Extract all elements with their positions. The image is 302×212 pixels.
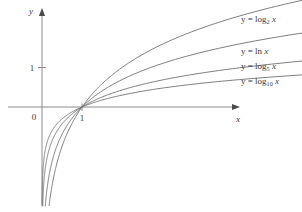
- svg-text:y = ln x: y = ln x: [241, 46, 268, 56]
- log10-prefix: y = log: [241, 76, 267, 86]
- x-tick-label-one: 1: [80, 113, 85, 123]
- svg-text:y = log10 x: y = log10 x: [241, 76, 279, 87]
- annotation-ln: y = ln x: [241, 46, 268, 56]
- ln-variable: x: [262, 46, 268, 56]
- log5-variable: x: [270, 61, 276, 71]
- y-axis-label: y: [28, 6, 33, 16]
- svg-text:y = log5 x: y = log5 x: [241, 61, 276, 72]
- x-axis-label: x: [235, 114, 240, 124]
- log5-prefix: y = log: [241, 61, 267, 71]
- y-tick-label-one: 1: [30, 63, 35, 73]
- log2-variable: x: [270, 14, 276, 24]
- svg-text:y = log2 x: y = log2 x: [241, 14, 276, 25]
- annotation-log5: y = log5 x: [241, 61, 276, 72]
- y-axis-arrowhead: [39, 8, 45, 16]
- annotation-log10: y = log10 x: [241, 76, 279, 87]
- logarithm-family-figure: y x 0 1 1 y = log2 x y = ln x y = log5 x…: [0, 0, 302, 212]
- curve-group: [42, 0, 302, 206]
- log10-variable: x: [273, 76, 279, 86]
- plot-canvas: y x 0 1 1 y = log2 x y = ln x y = log5 x…: [0, 0, 302, 212]
- annotation-log2: y = log2 x: [241, 14, 276, 25]
- log2-prefix: y = log: [241, 14, 267, 24]
- x-axis-arrowhead: [232, 104, 240, 110]
- origin-label: 0: [32, 112, 37, 122]
- curve-10: [42, 73, 302, 206]
- ln-prefix: y = ln: [241, 46, 263, 56]
